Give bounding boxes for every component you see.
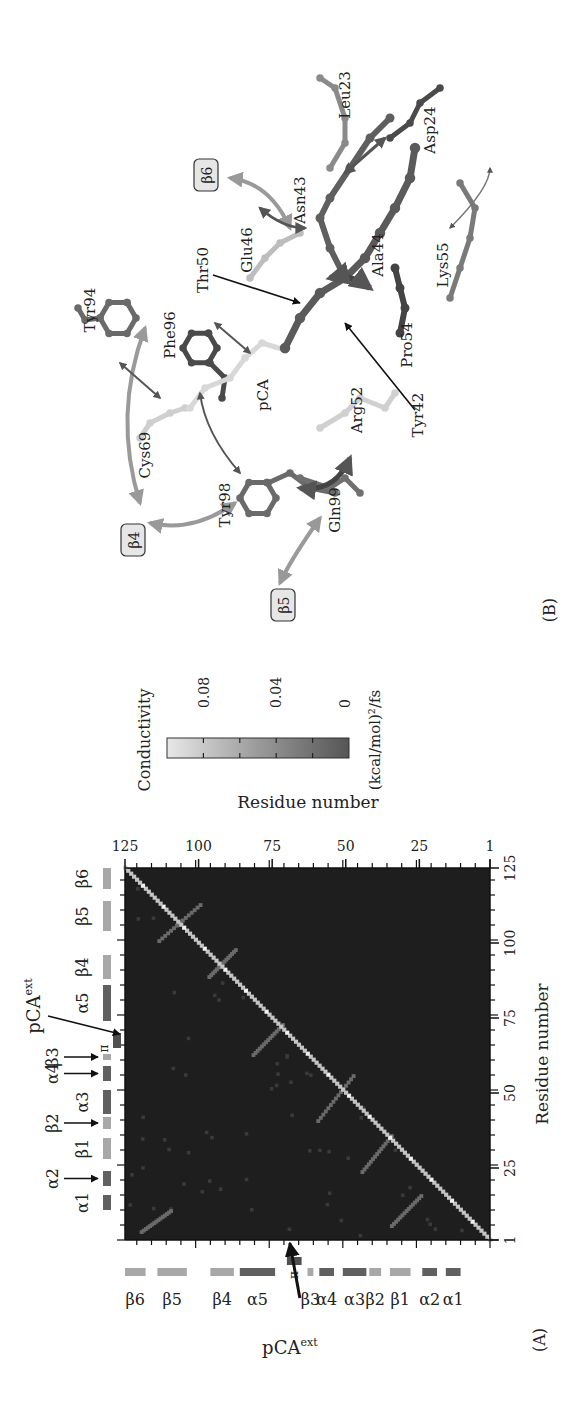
atom-ball [326, 244, 335, 253]
bond-stick [100, 302, 136, 333]
atom-ball [276, 239, 284, 247]
atom-ball [201, 384, 209, 392]
atom-ball [456, 264, 464, 272]
residue-label-asp24: Asp24 [421, 106, 439, 154]
heatmap-speckle [184, 1073, 188, 1077]
atom-ball [406, 119, 414, 127]
ss-bar-top [103, 1117, 111, 1129]
conductivity-arrow [280, 518, 320, 583]
atom-ball [316, 424, 324, 432]
ss-bar-top [103, 1090, 111, 1114]
heatmap-speckle [360, 1116, 364, 1120]
ss-label-left: β3 [301, 1290, 320, 1309]
heatmap-speckle [408, 1186, 412, 1190]
ss-bar-top [103, 868, 111, 889]
heatmap-speckle [217, 998, 221, 1002]
residue-labels: Tyr94Phe96Cys69Tyr98Gln99pCAArg52Pro54Ty… [81, 71, 452, 533]
ss-label-top: β6 [73, 869, 92, 888]
atom-ball [280, 343, 291, 354]
heatmap-speckle [221, 981, 225, 985]
atom-ball [391, 389, 399, 397]
atom-ball [396, 284, 405, 293]
structure-panel: Tyr94Phe96Cys69Tyr98Gln99pCAArg52Pro54Ty… [74, 71, 559, 622]
ss-bar-top [113, 1033, 121, 1048]
x-axis-label: Residue number [532, 982, 552, 1124]
heatmap-speckle [136, 887, 140, 891]
atom-ball [316, 214, 325, 223]
ss-label-top: β1 [73, 1139, 92, 1158]
bond-stick [183, 333, 217, 362]
y-tick-label: 25 [410, 838, 428, 854]
residue-label-glu46: Glu46 [238, 227, 256, 273]
residue-label-leu23: Leu23 [336, 71, 354, 119]
heatmap-speckle [401, 1193, 405, 1197]
atom-ball [296, 474, 304, 482]
ss-bar-left [319, 1268, 334, 1276]
ss-bar-top [103, 1138, 111, 1159]
residue-label-pro54: Pro54 [398, 322, 416, 367]
atom-ball [263, 510, 271, 518]
atom-ball [188, 359, 196, 367]
ss-bar-top [103, 985, 111, 1021]
heatmap-speckle [141, 1166, 145, 1170]
heatmap-contact-cell [234, 948, 238, 952]
residue-label-tyr42: Tyr42 [409, 393, 427, 438]
atom-ball [391, 264, 400, 273]
atom-ball [261, 254, 269, 262]
heatmap-speckle [241, 996, 245, 1000]
heatmap-speckle [327, 1150, 331, 1154]
heatmap-speckle [187, 1151, 191, 1155]
heatmap-speckle [128, 1203, 132, 1207]
atom-ball [341, 139, 349, 147]
ss-bar-top [103, 1171, 111, 1186]
heatmap-speckle [208, 1179, 212, 1183]
heatmap-speckle [167, 1148, 171, 1152]
ss-label-top: β5 [73, 906, 92, 925]
atom-ball [166, 409, 174, 417]
heatmap-speckle [275, 1084, 279, 1088]
heatmap-speckle [340, 1219, 344, 1223]
x-tick-label: 25 [502, 1159, 518, 1177]
atom-ball [381, 404, 389, 412]
residue-label-thr50: Thr50 [194, 247, 212, 293]
x-tick-label: 1 [502, 1236, 518, 1245]
residue-label-phe96: Phe96 [161, 311, 179, 359]
atom-ball [436, 84, 444, 92]
atom-ball [213, 344, 221, 352]
colorbar-tick-0: 0 [337, 699, 353, 708]
atom-ball [236, 494, 244, 502]
heatmap-speckle [305, 1072, 309, 1076]
heatmap-speckle [359, 1234, 363, 1238]
ss-box-label: β4 [126, 531, 142, 548]
figure: 12550751001251255075100125 α1α1α2α2β1β1β… [0, 0, 572, 1408]
heatmap-speckle [309, 1073, 313, 1077]
heatmap-speckle [219, 1187, 223, 1191]
atom-ball [258, 339, 266, 347]
residue-label-asn43: Asn43 [291, 176, 309, 224]
atom-ball [123, 330, 131, 338]
colorbar-tick-008: 0.08 [196, 677, 212, 708]
ss-bar-left [343, 1268, 367, 1276]
colorbar-gradient [167, 738, 349, 758]
heatmap-panel: 12550751001251255075100125 α1α1α2α2β1β1β… [22, 792, 552, 1358]
heatmap-speckle [328, 1192, 332, 1196]
atom-ball [356, 489, 364, 497]
heatmap-speckle [434, 1227, 438, 1231]
ss-bar-top [103, 901, 111, 931]
atom-ball [226, 374, 234, 382]
atom-ball [286, 469, 294, 477]
heatmap-speckle [276, 1062, 280, 1066]
heatmap-speckle [172, 1067, 176, 1071]
conductivity-arrow [120, 363, 160, 398]
thr50-leader [213, 275, 300, 303]
atom-ball [410, 143, 421, 154]
atom-ball [123, 299, 131, 307]
atom-ball [466, 234, 474, 242]
atom-ball [179, 344, 187, 352]
ss-bar-left [210, 1268, 234, 1276]
heatmap-speckle [308, 1149, 312, 1153]
heatmap-speckle [152, 916, 156, 920]
heatmap-speckle [326, 1203, 330, 1207]
ss-bar-left [125, 1268, 146, 1276]
ss-bar-left [240, 1268, 275, 1276]
